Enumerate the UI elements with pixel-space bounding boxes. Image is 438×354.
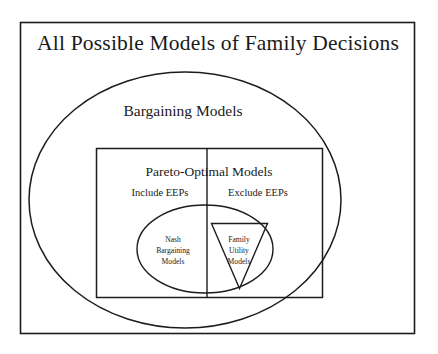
family-label-line1: Family bbox=[228, 235, 250, 244]
family-label-line3: Models bbox=[228, 257, 251, 266]
include-eeps-label: Include EEPs bbox=[132, 187, 189, 198]
figure-title: All Possible Models of Family Decisions bbox=[37, 31, 399, 55]
pareto-optimal-models-label: Pareto-Optimal Models bbox=[145, 164, 272, 179]
nash-label-line3: Models bbox=[162, 257, 185, 266]
nash-label-line2: Bargaining bbox=[156, 246, 190, 255]
bargaining-models-label: Bargaining Models bbox=[124, 102, 243, 119]
family-label-line2: Utility bbox=[229, 246, 249, 255]
family-utility-triangle bbox=[212, 224, 268, 289]
figure-root: All Possible Models of Family Decisions … bbox=[0, 0, 438, 354]
exclude-eeps-label: Exclude EEPs bbox=[228, 187, 288, 198]
nash-label-line1: Nash bbox=[165, 235, 181, 244]
venn-diagram: All Possible Models of Family Decisions … bbox=[0, 0, 438, 354]
